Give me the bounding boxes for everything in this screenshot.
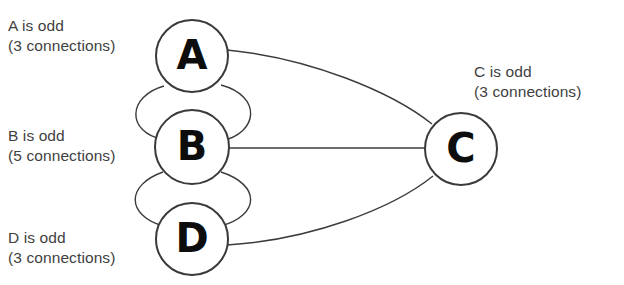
annotation-c-line2: (3 connections) <box>474 82 581 102</box>
node-d-label: D <box>175 215 208 261</box>
edge-d-c <box>227 176 433 245</box>
annotation-d: D is odd (3 connections) <box>8 228 115 268</box>
node-b-label: B <box>177 123 208 169</box>
annotation-c-line1: C is odd <box>474 62 581 82</box>
node-c-label: C <box>446 125 475 171</box>
annotation-d-line1: D is odd <box>8 228 115 248</box>
annotation-b-line2: (5 connections) <box>8 146 115 166</box>
node-b[interactable]: B <box>155 110 229 184</box>
annotation-b-line1: B is odd <box>8 126 115 146</box>
node-a[interactable]: A <box>156 20 228 92</box>
annotation-d-line2: (3 connections) <box>8 248 115 268</box>
node-c[interactable]: C <box>425 113 497 185</box>
edge-b-d-left <box>135 172 163 226</box>
annotation-b: B is odd (5 connections) <box>8 126 115 166</box>
annotation-c: C is odd (3 connections) <box>474 62 581 102</box>
graph-diagram: A B D C A is odd (3 connections) B is od… <box>0 0 624 285</box>
node-a-label: A <box>177 32 208 78</box>
edge-a-c <box>227 50 432 124</box>
annotation-a-line1: A is odd <box>8 16 115 36</box>
node-d[interactable]: D <box>156 203 228 275</box>
annotation-a-line2: (3 connections) <box>8 36 115 56</box>
annotation-a: A is odd (3 connections) <box>8 16 115 56</box>
edge-b-d-right <box>221 172 251 226</box>
